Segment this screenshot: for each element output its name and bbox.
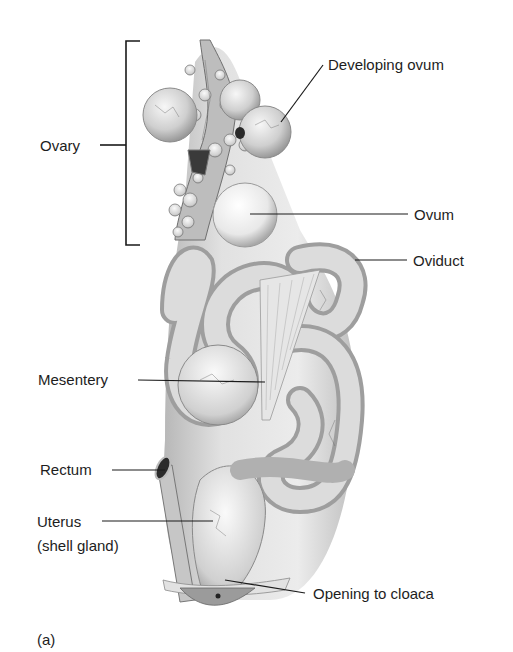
- label-ovum: Ovum: [414, 206, 454, 223]
- panel-label: (a): [37, 631, 55, 648]
- follicle-opening: [235, 127, 245, 139]
- anatomy-figure: Ovary Developing ovum Ovum Oviduct Mesen…: [0, 0, 513, 652]
- leader-developing-ovum: [281, 65, 323, 122]
- ovum-shape: [213, 183, 277, 247]
- developing-ovum-left: [143, 88, 197, 142]
- label-ovary: Ovary: [40, 137, 80, 154]
- oviduct-to-uterus: [240, 467, 345, 473]
- ovary-bracket: [100, 41, 140, 245]
- label-developing-ovum: Developing ovum: [328, 56, 444, 73]
- oviduct-bulge: [178, 345, 258, 425]
- label-rectum: Rectum: [40, 461, 92, 478]
- label-opening-to-cloaca: Opening to cloaca: [313, 585, 434, 602]
- cloaca-aperture: [216, 594, 221, 599]
- label-mesentery: Mesentery: [38, 371, 108, 388]
- female-bird-reproductive-tract-illustration: [0, 0, 513, 652]
- label-shell-gland: (shell gland): [37, 537, 119, 554]
- label-oviduct: Oviduct: [413, 252, 464, 269]
- developing-ovum-right: [239, 106, 291, 158]
- label-uterus: Uterus: [37, 513, 81, 530]
